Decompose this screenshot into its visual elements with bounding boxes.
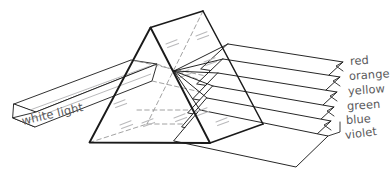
- diagram-canvas: white light red orange yellow green blue…: [0, 0, 392, 190]
- top-ridge-edge: [151, 11, 204, 28]
- spectrum-label-red: red: [350, 55, 370, 68]
- prism-dispersion-figure: [0, 0, 392, 190]
- spectrum-label-green: green: [347, 99, 381, 113]
- spectrum-label-orange: orange: [349, 68, 390, 82]
- spectrum-sheets: [174, 44, 343, 167]
- spectrum-label-yellow: yellow: [348, 83, 386, 97]
